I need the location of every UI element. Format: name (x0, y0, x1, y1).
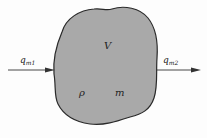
outflow-subscript: m2 (169, 59, 179, 66)
outflow-label: qm2 (163, 56, 178, 66)
diagram-canvas: qm1 qm2 V ρ m (0, 0, 207, 138)
density-label: ρ (79, 88, 85, 98)
inflow-arrow (8, 68, 55, 73)
outflow-arrow (157, 68, 201, 73)
control-volume-shape (54, 7, 157, 124)
inflow-label: qm1 (20, 56, 35, 66)
inflow-subscript: m1 (26, 59, 36, 66)
volume-label: V (104, 41, 111, 51)
mass-label: m (115, 88, 124, 98)
diagram-graphics (0, 0, 207, 138)
